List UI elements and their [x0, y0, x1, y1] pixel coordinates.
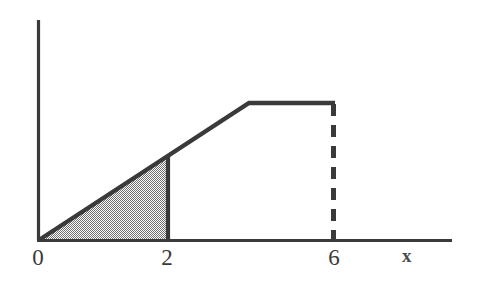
x-tick-label-0: 0 — [32, 246, 44, 269]
x-axis-name-label: x — [402, 246, 412, 265]
x-tick-label-6: 6 — [328, 246, 340, 269]
plot-canvas — [0, 0, 484, 287]
x-tick-label-2: 2 — [161, 246, 173, 269]
figure-root: 0 2 6 x — [0, 0, 484, 287]
